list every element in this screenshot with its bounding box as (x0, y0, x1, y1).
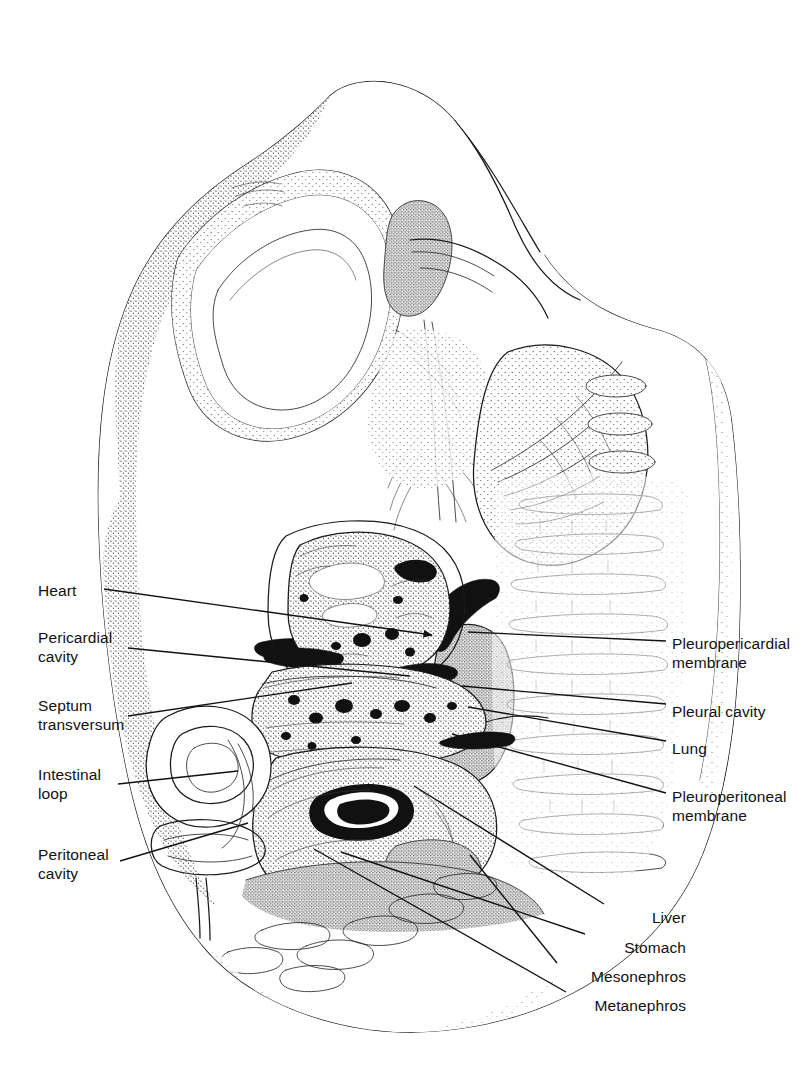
label-liver: Liver (652, 908, 686, 927)
label-pericardial-cavity: Pericardial cavity (38, 628, 112, 666)
label-pleuroperitoneal-membrane: Pleuroperitoneal membrane (672, 787, 786, 825)
label-metanephros: Metanephros (594, 996, 686, 1015)
label-peritoneal-cavity: Peritoneal cavity (38, 845, 109, 883)
label-pleural-cavity: Pleural cavity (672, 702, 766, 721)
label-heart: Heart (38, 581, 76, 600)
label-pleuropericardial-membrane: Pleuropericardial membrane (672, 634, 790, 672)
label-mesonephros: Mesonephros (591, 967, 686, 986)
label-septum-transversum: Septum transversum (38, 696, 124, 734)
label-lung: Lung (672, 739, 707, 758)
label-stomach: Stomach (624, 938, 686, 957)
label-intestinal-loop: Intestinal loop (38, 765, 101, 803)
